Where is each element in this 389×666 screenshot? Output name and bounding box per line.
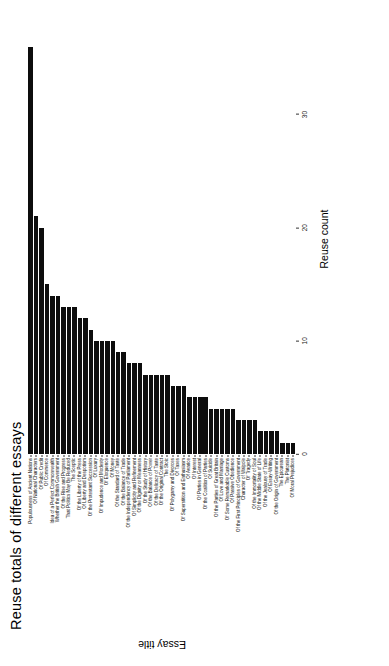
y-tick-mark xyxy=(58,455,59,457)
bar xyxy=(231,409,235,454)
y-tick-mark xyxy=(271,455,272,457)
bar xyxy=(171,386,175,454)
bar-category-label: Of Moral Prejudices xyxy=(291,458,296,498)
y-tick-mark xyxy=(205,455,206,457)
y-tick-mark xyxy=(238,455,239,457)
bar xyxy=(83,318,87,454)
y-tick-mark xyxy=(183,455,184,457)
y-tick-mark xyxy=(79,455,80,457)
bar xyxy=(280,443,284,454)
bar xyxy=(132,363,136,454)
y-tick-mark xyxy=(161,455,162,457)
y-tick-mark xyxy=(156,455,157,457)
bar xyxy=(34,216,38,454)
bar xyxy=(67,307,71,454)
bar xyxy=(182,386,186,454)
y-tick-mark xyxy=(151,455,152,457)
bar xyxy=(116,352,120,454)
y-tick-mark xyxy=(69,455,70,457)
y-tick-mark xyxy=(178,455,179,457)
bar xyxy=(247,420,251,454)
bar xyxy=(121,352,125,454)
bar-series: Populousness of Ancient NationsOf Nation… xyxy=(28,24,296,454)
y-tick-mark xyxy=(282,455,283,457)
bar-chart-figure: Reuse totals of different essays Essay t… xyxy=(0,0,389,666)
bar xyxy=(72,307,76,454)
bar xyxy=(127,363,131,454)
y-tick-mark xyxy=(134,455,135,457)
x-tick-mark xyxy=(296,227,299,228)
y-tick-mark xyxy=(107,455,108,457)
bar xyxy=(138,363,142,454)
y-tick-mark xyxy=(254,455,255,457)
x-axis-title: Reuse count xyxy=(318,24,330,454)
x-axis: 0102030 xyxy=(296,24,336,454)
bar xyxy=(214,409,218,454)
x-tick: 0 xyxy=(296,452,308,456)
bar xyxy=(193,397,197,454)
bar xyxy=(198,397,202,454)
x-tick-label: 20 xyxy=(301,224,308,231)
y-tick-mark xyxy=(265,455,266,457)
bar xyxy=(45,284,49,454)
y-tick-mark xyxy=(227,455,228,457)
y-axis-title: Essay title xyxy=(28,638,296,652)
bar xyxy=(61,307,65,454)
bar xyxy=(50,296,54,454)
y-tick-mark xyxy=(118,455,119,457)
x-tick-label: 10 xyxy=(301,337,308,344)
y-tick-mark xyxy=(167,455,168,457)
y-tick-mark xyxy=(47,455,48,457)
bar xyxy=(275,431,279,454)
y-tick-mark xyxy=(74,455,75,457)
y-tick-mark xyxy=(260,455,261,457)
x-tick-label: 30 xyxy=(301,111,308,118)
bar xyxy=(253,420,257,454)
y-tick-mark xyxy=(211,455,212,457)
y-tick-mark xyxy=(189,455,190,457)
bar xyxy=(111,341,115,454)
y-tick-mark xyxy=(90,455,91,457)
bar xyxy=(78,318,82,454)
bar xyxy=(258,431,262,454)
y-tick-mark xyxy=(172,455,173,457)
bar xyxy=(105,341,109,454)
bar xyxy=(165,375,169,454)
bar xyxy=(160,375,164,454)
y-tick-mark xyxy=(101,455,102,457)
y-tick-mark xyxy=(244,455,245,457)
x-tick: 20 xyxy=(296,224,308,231)
bar xyxy=(56,296,60,454)
rotated-figure-container: Reuse totals of different essays Essay t… xyxy=(0,0,389,666)
bar xyxy=(149,375,153,454)
bar xyxy=(269,431,273,454)
y-tick-mark xyxy=(194,455,195,457)
bar xyxy=(94,341,98,454)
bar xyxy=(143,375,147,454)
x-tick: 30 xyxy=(296,111,308,118)
bar xyxy=(176,386,180,454)
y-tick-mark xyxy=(36,455,37,457)
y-tick-mark xyxy=(287,455,288,457)
bar xyxy=(89,330,93,454)
bar xyxy=(291,443,295,454)
y-tick-mark xyxy=(85,455,86,457)
x-tick-mark xyxy=(296,340,299,341)
x-tick-label: 0 xyxy=(301,452,308,456)
y-tick-mark xyxy=(249,455,250,457)
x-tick-mark xyxy=(296,114,299,115)
bar xyxy=(100,341,104,454)
bar xyxy=(39,228,43,454)
y-tick-mark xyxy=(30,455,31,457)
bar xyxy=(220,409,224,454)
x-tick: 10 xyxy=(296,337,308,344)
x-tick-mark xyxy=(296,454,299,455)
plot-area: Populousness of Ancient NationsOf Nation… xyxy=(28,24,296,454)
bar xyxy=(242,420,246,454)
bar xyxy=(28,47,32,454)
y-tick-mark xyxy=(216,455,217,457)
y-tick-mark xyxy=(200,455,201,457)
y-tick-mark xyxy=(233,455,234,457)
bar xyxy=(209,409,213,454)
y-axis-title-label: Essay title xyxy=(138,639,186,651)
